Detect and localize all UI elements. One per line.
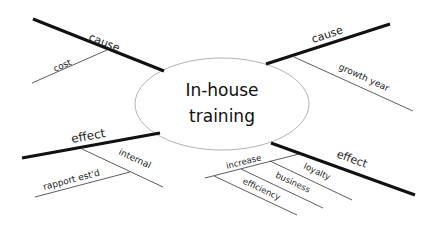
- fishbone-diagram: In-house training cause cost cause growt…: [0, 0, 437, 233]
- branch-effect-bottom-left: effect internal rapport est'd: [22, 126, 163, 197]
- center-title-line2: training: [189, 106, 255, 126]
- sub-label-internal: internal: [117, 147, 153, 171]
- sub-label-rapport: rapport est'd: [42, 167, 101, 191]
- branch-cause-top-left: cause cost: [32, 19, 164, 83]
- sub-label-cost: cost: [52, 57, 74, 74]
- branch-label: cause: [310, 23, 345, 45]
- center-title-line1: In-house: [185, 80, 258, 100]
- center-node: In-house training: [135, 58, 309, 150]
- branch-effect-bottom-right: effect increase loyalty business efficie…: [205, 143, 415, 215]
